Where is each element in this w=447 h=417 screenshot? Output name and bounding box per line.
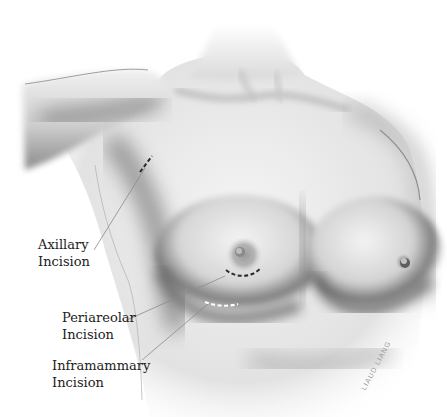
axillary-label-line1: Axillary [38,236,90,253]
inframammary-incision-label: Inframammary Incision [52,357,150,391]
periareolar-incision-label: Periareolar Incision [62,309,136,343]
inframammary-label-line1: Inframammary [52,357,150,374]
axillary-label-line2: Incision [38,253,90,270]
illustration: Axillary Incision Periareolar Incision I… [0,0,447,417]
axillary-incision-label: Axillary Incision [38,236,90,270]
neck-shape [190,24,300,80]
periareolar-label-line1: Periareolar [62,309,136,326]
periareolar-label-line2: Incision [62,326,136,343]
inframammary-label-line2: Incision [52,374,150,391]
